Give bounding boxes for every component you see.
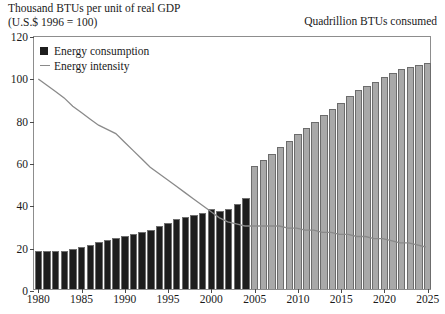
legend: Energy consumption Energy intensity (40, 43, 149, 73)
x-tick-label-1980: 1980 (27, 293, 50, 305)
x-tick-mark-2020 (384, 289, 385, 293)
x-tick-label-2010: 2010 (286, 293, 309, 305)
legend-item-energy-intensity: Energy intensity (40, 58, 149, 73)
x-tick-mark-2000 (211, 289, 212, 293)
plot-area: 020406080100120 198019851990199520002005… (33, 36, 431, 290)
x-tick-label-2005: 2005 (243, 293, 266, 305)
y-tick-mark-0 (30, 291, 34, 292)
y-tick-label-100: 100 (0, 73, 34, 85)
x-tick-mark-1980 (38, 289, 39, 293)
x-tick-mark-2025 (428, 289, 429, 293)
legend-label-energy-consumption: Energy consumption (54, 45, 149, 57)
x-tick-mark-2015 (341, 289, 342, 293)
y-tick-label-80: 80 (0, 116, 34, 128)
x-tick-label-1985: 1985 (70, 293, 93, 305)
energy-intensity-line-layer (34, 37, 430, 289)
y-tick-mark-20 (30, 249, 34, 250)
y-tick-label-40: 40 (0, 200, 34, 212)
x-tick-mark-2005 (255, 289, 256, 293)
filled-square-icon (40, 47, 48, 55)
legend-item-energy-consumption: Energy consumption (40, 43, 149, 58)
y-tick-label-120: 120 (0, 31, 34, 43)
energy-intensity-line (38, 79, 425, 247)
x-tick-mark-1990 (125, 289, 126, 293)
y-tick-mark-60 (30, 164, 34, 165)
y-tick-mark-40 (30, 206, 34, 207)
x-tick-mark-2010 (298, 289, 299, 293)
x-tick-label-2015: 2015 (330, 293, 353, 305)
y-tick-mark-100 (30, 79, 34, 80)
x-tick-label-2020: 2020 (373, 293, 396, 305)
chart-figure: Thousand BTUs per unit of real GDP (U.S.… (0, 0, 445, 314)
y-tick-label-20: 20 (0, 243, 34, 255)
y-tick-label-60: 60 (0, 158, 34, 170)
x-tick-mark-1995 (168, 289, 169, 293)
line-marker-icon (40, 65, 50, 66)
x-tick-label-1990: 1990 (113, 293, 136, 305)
y-tick-mark-80 (30, 122, 34, 123)
left-axis-title: Thousand BTUs per unit of real GDP (U.S.… (8, 2, 180, 29)
x-tick-label-1995: 1995 (157, 293, 180, 305)
legend-label-energy-intensity: Energy intensity (54, 60, 130, 72)
x-tick-label-2000: 2000 (200, 293, 223, 305)
x-tick-mark-1985 (82, 289, 83, 293)
x-tick-label-2025: 2025 (416, 293, 439, 305)
y-tick-mark-120 (30, 37, 34, 38)
right-axis-title: Quadrillion BTUs consumed (304, 15, 437, 29)
